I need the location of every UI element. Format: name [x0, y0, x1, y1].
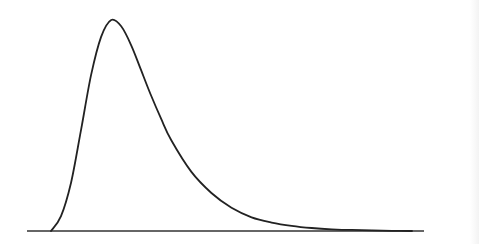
distribution-plot: [0, 0, 479, 244]
right-edge-strip: [470, 0, 479, 244]
density-curve: [51, 20, 412, 231]
